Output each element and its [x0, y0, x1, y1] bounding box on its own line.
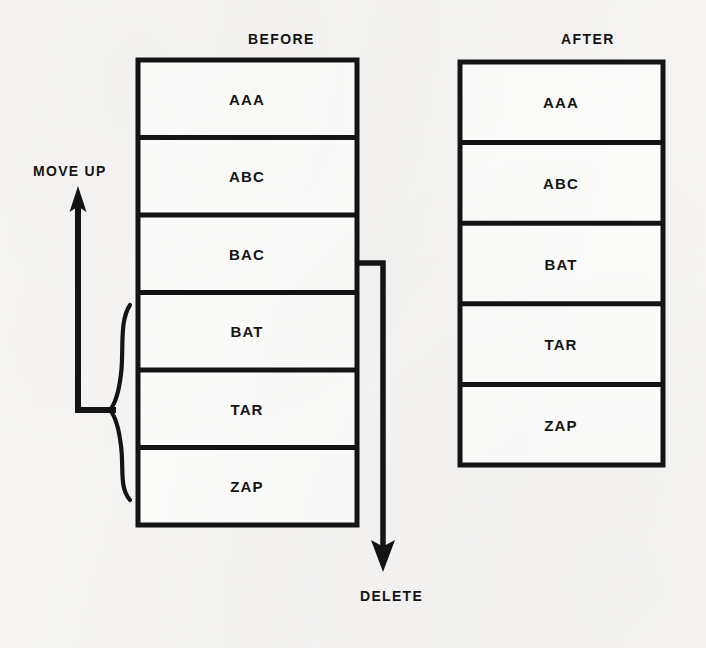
before-caption: BEFORE — [248, 31, 315, 47]
after-cell-4: ZAP — [544, 417, 577, 434]
after-cell-0: AAA — [543, 94, 579, 111]
after-cell-1: ABC — [543, 175, 579, 192]
move-up-label: MOVE UP — [33, 163, 107, 179]
diagram-canvas: BEFORE AFTER AAA ABC BAC BAT TAR ZAP AAA… — [0, 0, 706, 648]
before-table — [138, 60, 357, 525]
grouping-brace-icon — [110, 305, 130, 500]
move-up-arrow-icon — [70, 186, 117, 410]
after-cell-3: TAR — [544, 336, 577, 353]
before-cell-4: TAR — [230, 401, 263, 418]
after-cell-2: BAT — [544, 256, 577, 273]
delete-arrow-icon — [357, 263, 395, 572]
diagram-vector-layer — [0, 0, 706, 648]
before-cell-0: AAA — [229, 91, 265, 108]
before-cell-3: BAT — [230, 323, 263, 340]
after-caption: AFTER — [561, 31, 615, 47]
before-cell-5: ZAP — [230, 478, 263, 495]
before-cell-2: BAC — [229, 246, 265, 263]
delete-label: DELETE — [360, 588, 423, 604]
before-cell-1: ABC — [229, 168, 265, 185]
